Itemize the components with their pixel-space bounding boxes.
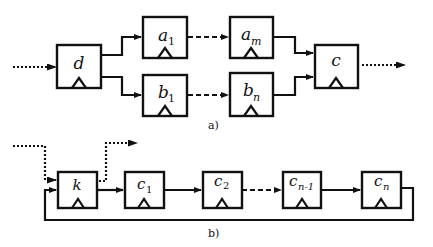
diagram-b: k c 1 c 2 c n-1 c n b) [13,143,413,240]
register-label: c [331,50,341,70]
register-label: c [374,172,383,190]
register-subscript: 2 [223,180,229,191]
register-label: d [74,53,85,73]
register-diagram: d a 1 a m b 1 b n c [0,0,433,247]
register-a1: a 1 [143,17,187,58]
register-c: c [315,45,358,88]
register-subscript: 1 [146,184,152,195]
diagram-a: d a 1 a m b 1 b n c [13,17,405,132]
wire-am-c [274,37,313,53]
register-c2: c 2 [203,172,242,208]
input-arrow-b [13,146,56,180]
register-k: k [58,172,97,208]
register-d: d [57,45,101,88]
register-cn1: c n-1 [283,172,321,208]
register-subscript: 1 [168,92,175,105]
wire-bn-c [274,77,313,95]
register-label: k [72,176,81,194]
register-label: c [214,172,223,190]
register-subscript: 1 [168,35,175,48]
register-cn: c n [362,172,401,208]
register-subscript: n [383,181,389,192]
wire-d-b1 [101,77,141,95]
register-bn: b n [230,73,273,116]
caption-a: a) [208,119,219,132]
caption-b: b) [208,227,219,240]
register-label: a [158,25,168,45]
register-am: a m [230,17,273,58]
register-subscript: n-1 [298,181,314,192]
register-label: a [241,24,251,44]
register-label: c [137,175,146,193]
register-subscript: m [251,35,261,48]
wire-d-a1 [101,37,141,55]
register-c1: c 1 [125,172,164,208]
register-subscript: n [253,91,260,104]
register-b1: b 1 [143,75,187,116]
register-label: c [289,172,298,190]
